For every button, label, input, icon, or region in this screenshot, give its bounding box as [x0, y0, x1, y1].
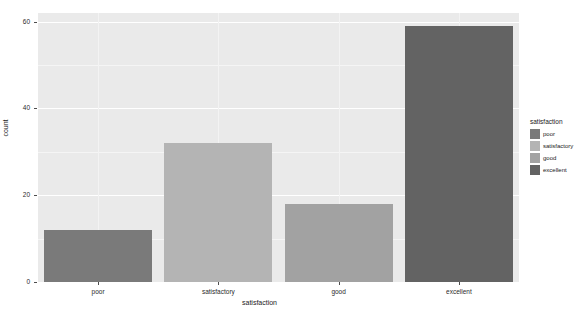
legend-swatch-poor — [530, 129, 540, 139]
legend-swatch-satisfactory — [530, 141, 540, 151]
y-tick-mark — [34, 108, 37, 109]
y-tick-label: 60 — [2, 18, 30, 25]
gridline-major — [38, 282, 519, 283]
y-tick-mark — [34, 22, 37, 23]
plot-panel — [38, 13, 519, 282]
x-axis-title: satisfaction — [0, 299, 519, 306]
legend: satisfaction poorsatisfactorygoodexcelle… — [530, 118, 573, 176]
legend-label: excellent — [543, 167, 567, 173]
bar-poor — [44, 230, 152, 282]
x-tick-label: good — [299, 288, 379, 295]
x-tick-mark — [459, 282, 460, 285]
bar-good — [285, 204, 393, 282]
x-tick-label: excellent — [419, 288, 499, 295]
legend-item-good: good — [530, 152, 573, 164]
y-tick-mark — [34, 282, 37, 283]
y-tick-mark — [34, 195, 37, 196]
x-tick-mark — [98, 282, 99, 285]
x-tick-label: satisfactory — [178, 288, 258, 295]
bar-satisfactory — [164, 143, 272, 282]
legend-item-satisfactory: satisfactory — [530, 140, 573, 152]
legend-item-excellent: excellent — [530, 164, 573, 176]
x-tick-mark — [339, 282, 340, 285]
legend-label: good — [543, 155, 556, 161]
y-tick-label: 20 — [2, 191, 30, 198]
legend-swatch-excellent — [530, 165, 540, 175]
legend-items: poorsatisfactorygoodexcellent — [530, 128, 573, 176]
legend-label: poor — [543, 131, 555, 137]
legend-item-poor: poor — [530, 128, 573, 140]
legend-label: satisfactory — [543, 143, 573, 149]
y-tick-label: 0 — [2, 278, 30, 285]
gridline-major — [38, 22, 519, 23]
legend-title: satisfaction — [530, 118, 573, 125]
bar-chart: count 0204060 poorsatisfactorygoodexcell… — [0, 0, 587, 315]
legend-swatch-good — [530, 153, 540, 163]
x-tick-label: poor — [58, 288, 138, 295]
x-tick-mark — [218, 282, 219, 285]
y-tick-label: 40 — [2, 104, 30, 111]
bar-excellent — [405, 26, 513, 282]
